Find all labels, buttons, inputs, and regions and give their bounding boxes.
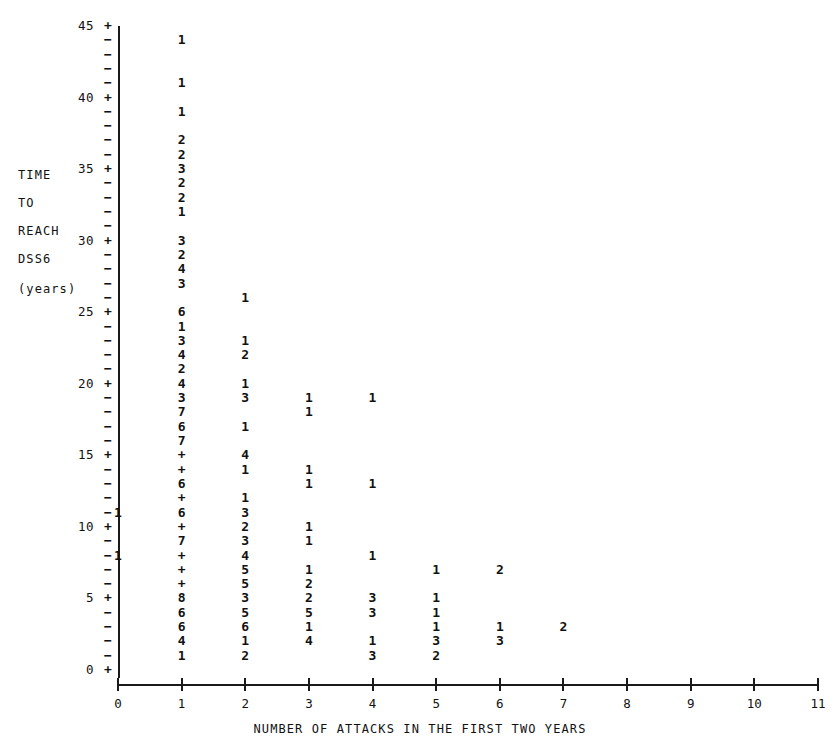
plot-count-glyph: 3 — [235, 591, 255, 605]
plot-count-glyph: 1 — [426, 563, 446, 577]
plot-count-glyph: 1 — [363, 634, 383, 648]
y-axis-tick-label: 0 — [58, 663, 94, 677]
y-axis-minor-tick: − — [100, 105, 116, 119]
plot-count-glyph: 1 — [426, 591, 446, 605]
plot-count-glyph: 6 — [235, 620, 255, 634]
y-axis-tick-label: 20 — [58, 377, 94, 391]
y-axis-minor-tick: − — [100, 48, 116, 62]
plot-count-glyph: 2 — [299, 577, 319, 591]
plot-count-glyph: 1 — [363, 477, 383, 491]
plot-count-glyph: 2 — [172, 148, 192, 162]
x-axis-title: NUMBER OF ATTACKS IN THE FIRST TWO YEARS — [0, 722, 840, 736]
plot-count-glyph: 1 — [299, 477, 319, 491]
plot-count-glyph: 5 — [235, 577, 255, 591]
y-axis-minor-tick: − — [100, 477, 116, 491]
y-axis-major-tick: + — [100, 377, 116, 391]
x-axis-tick-label: 6 — [485, 696, 515, 711]
plot-count-glyph: 1 — [172, 76, 192, 90]
plot-count-glyph: 1 — [299, 563, 319, 577]
y-axis-major-tick: + — [100, 448, 116, 462]
y-axis-major-tick: + — [100, 305, 116, 319]
plot-count-glyph: 3 — [426, 634, 446, 648]
x-axis-tick-mark — [435, 678, 437, 691]
plot-count-glyph: 4 — [235, 448, 255, 462]
y-axis-minor-tick: − — [100, 133, 116, 147]
y-axis-tick-label: 40 — [58, 91, 94, 105]
plot-count-glyph: 5 — [235, 563, 255, 577]
y-axis-minor-tick: − — [100, 405, 116, 419]
plot-count-glyph: 3 — [363, 606, 383, 620]
y-axis-minor-tick: − — [100, 563, 116, 577]
y-axis-title-line: TO — [18, 196, 35, 210]
y-axis-minor-tick: − — [100, 205, 116, 219]
plot-count-glyph: 1 — [299, 405, 319, 419]
y-axis-minor-tick: − — [100, 463, 116, 477]
x-axis-tick-mark — [181, 678, 183, 691]
plot-count-glyph: 3 — [172, 391, 192, 405]
plot-count-glyph: 3 — [172, 277, 192, 291]
plot-count-glyph: 7 — [172, 434, 192, 448]
y-axis-minor-tick: − — [100, 76, 116, 90]
x-axis-tick-mark — [244, 678, 246, 691]
plot-count-glyph: 1 — [235, 634, 255, 648]
plot-count-glyph: 3 — [235, 391, 255, 405]
y-axis-minor-tick: − — [100, 634, 116, 648]
plot-count-glyph: 1 — [235, 291, 255, 305]
plot-count-glyph: 3 — [235, 506, 255, 520]
y-axis-major-tick: + — [100, 663, 116, 677]
y-axis-minor-tick: − — [100, 348, 116, 362]
y-axis-minor-tick: − — [100, 420, 116, 434]
plot-count-glyph: 1 — [299, 534, 319, 548]
plot-count-glyph: 2 — [490, 563, 510, 577]
plot-count-glyph: 6 — [172, 620, 192, 634]
plot-count-glyph: 5 — [235, 606, 255, 620]
plot-count-glyph: 4 — [172, 634, 192, 648]
y-axis-tick-label: 25 — [58, 305, 94, 319]
plot-count-glyph: 1 — [299, 520, 319, 534]
y-axis-tick-label: 15 — [58, 448, 94, 462]
x-axis-line — [118, 684, 818, 686]
plot-count-glyph: 6 — [172, 506, 192, 520]
y-axis-major-tick: + — [100, 91, 116, 105]
plot-count-glyph: 2 — [235, 520, 255, 534]
plot-count-glyph: + — [172, 463, 192, 477]
plot-count-glyph: 2 — [299, 591, 319, 605]
y-axis-tick-label: 10 — [58, 520, 94, 534]
y-axis-minor-tick: − — [100, 649, 116, 663]
plot-count-glyph: 1 — [363, 549, 383, 563]
plot-count-glyph: 8 — [172, 591, 192, 605]
plot-count-glyph: 1 — [426, 606, 446, 620]
plot-count-glyph: 4 — [299, 634, 319, 648]
x-axis-tick-mark — [753, 678, 755, 691]
plot-count-glyph: 1 — [299, 620, 319, 634]
y-axis-minor-tick: − — [100, 391, 116, 405]
y-axis-major-tick: + — [100, 234, 116, 248]
x-axis-tick-mark — [562, 678, 564, 691]
plot-count-glyph: 1 — [299, 463, 319, 477]
plot-count-glyph: 2 — [426, 649, 446, 663]
plot-count-glyph: 1 — [490, 620, 510, 634]
y-axis-minor-tick: − — [100, 291, 116, 305]
x-axis-tick-label: 3 — [294, 696, 324, 711]
plot-count-glyph: 4 — [172, 377, 192, 391]
y-axis-minor-tick: − — [100, 534, 116, 548]
y-axis-minor-tick: − — [100, 491, 116, 505]
plot-count-glyph: 1 — [108, 549, 128, 563]
plot-count-glyph: 4 — [172, 348, 192, 362]
x-axis-tick-label: 8 — [612, 696, 642, 711]
plot-count-glyph: + — [172, 491, 192, 505]
x-axis-tick-mark — [308, 678, 310, 691]
plot-count-glyph: 1 — [172, 320, 192, 334]
y-axis-title-line: REACH — [18, 224, 60, 238]
y-axis-minor-tick: − — [100, 191, 116, 205]
y-axis-minor-tick: − — [100, 320, 116, 334]
x-axis-tick-label: 5 — [421, 696, 451, 711]
plot-count-glyph: 3 — [172, 162, 192, 176]
plot-count-glyph: 1 — [426, 620, 446, 634]
y-axis-minor-tick: − — [100, 119, 116, 133]
plot-count-glyph: 6 — [172, 420, 192, 434]
y-axis-minor-tick: − — [100, 434, 116, 448]
plot-count-glyph: 2 — [235, 348, 255, 362]
plot-count-glyph: 1 — [235, 334, 255, 348]
plot-count-glyph: 1 — [172, 105, 192, 119]
